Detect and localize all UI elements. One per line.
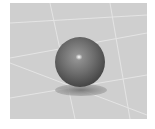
sphere: [55, 37, 105, 87]
render-viewport: [10, 3, 147, 119]
sphere-highlight: [76, 54, 83, 60]
rendered-scene: [10, 3, 147, 119]
